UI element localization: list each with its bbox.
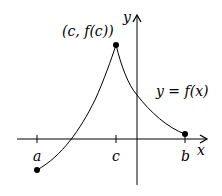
label-c: c — [112, 148, 120, 164]
point-a-dot — [34, 167, 40, 173]
curve-left-branch — [37, 45, 116, 170]
label-a: a — [33, 148, 41, 164]
label-b: b — [181, 148, 190, 164]
x-axis-label: x — [197, 142, 205, 158]
curve-label: y = f(x) — [155, 83, 209, 99]
point-c-peak-dot — [113, 42, 119, 48]
diagram-canvas: y x a c b (c, f(c)) y = f(x) — [0, 0, 222, 196]
y-axis-label: y — [122, 9, 132, 25]
point-b-dot — [182, 131, 188, 137]
peak-label: (c, f(c)) — [62, 23, 114, 39]
